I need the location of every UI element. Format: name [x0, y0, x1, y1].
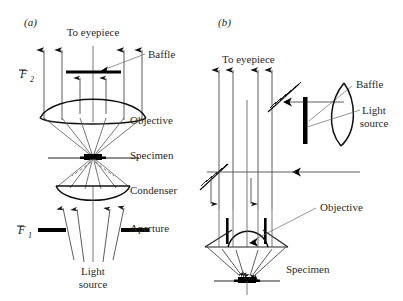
svg-text:F: F	[17, 223, 26, 237]
objective-b-label: Objective	[320, 201, 363, 213]
objective-b-leader	[249, 208, 316, 247]
baffle-b	[303, 97, 308, 144]
panel-a: (a) To eyepiece F 2	[17, 16, 177, 290]
svg-text:source: source	[360, 117, 389, 129]
baffle-a-label: Baffle	[148, 48, 175, 60]
figure-page: (a) To eyepiece F 2	[0, 0, 403, 301]
condenser-a-label: Condenser	[130, 184, 177, 196]
svg-text:source: source	[79, 278, 108, 290]
baffle-b-label: Baffle	[356, 78, 383, 90]
svg-text:F: F	[19, 67, 28, 81]
specimen-a-label: Specimen	[130, 149, 174, 161]
svg-text:Light: Light	[362, 104, 386, 116]
panel-b-source-beam-lower	[292, 168, 360, 177]
panel-b: (b) To eyepiece	[200, 16, 388, 295]
half-mirror-lower	[200, 164, 228, 190]
specimen-b-label: Specimen	[286, 263, 330, 275]
panel-a-upward-rays	[44, 46, 142, 122]
baffle-b-leader	[309, 86, 352, 121]
svg-text:1: 1	[28, 231, 32, 240]
optical-diagram-svg: (a) To eyepiece F 2	[0, 0, 403, 301]
focal-plane-f2-symbol: F 2	[19, 67, 34, 84]
half-mirror-upper	[268, 82, 301, 112]
panel-b-converging-rays	[207, 247, 286, 276]
panel-a-to-eyepiece-label: To eyepiece	[67, 26, 120, 38]
objective-b	[205, 230, 288, 247]
aperture-a-label: Aperture	[130, 222, 169, 234]
panel-b-to-eyepiece-label: To eyepiece	[222, 53, 275, 65]
specimen-b	[214, 277, 280, 295]
panel-a-letter: (a)	[24, 16, 37, 29]
panel-b-letter: (b)	[218, 16, 231, 29]
panel-b-downward-rays	[211, 178, 251, 204]
collector-lens-b	[331, 83, 353, 146]
light-source-a-label: Light source	[79, 265, 108, 290]
panel-a-condenser-output-rays	[58, 159, 128, 189]
light-source-b-label: Light source	[360, 104, 389, 129]
svg-text:2: 2	[30, 75, 34, 84]
focal-plane-f1-symbol: F 1	[17, 223, 32, 240]
svg-text:Light: Light	[81, 265, 105, 277]
objective-a-label: Objective	[130, 114, 173, 126]
panel-b-upward-rays	[219, 70, 272, 210]
